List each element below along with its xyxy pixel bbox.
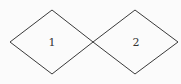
rhombus-1-label: 1: [49, 36, 56, 49]
rhombi-diagram: 1 2: [0, 0, 181, 84]
diagram-canvas: 1 2: [0, 0, 181, 84]
rhombus-2-label: 2: [133, 36, 140, 49]
